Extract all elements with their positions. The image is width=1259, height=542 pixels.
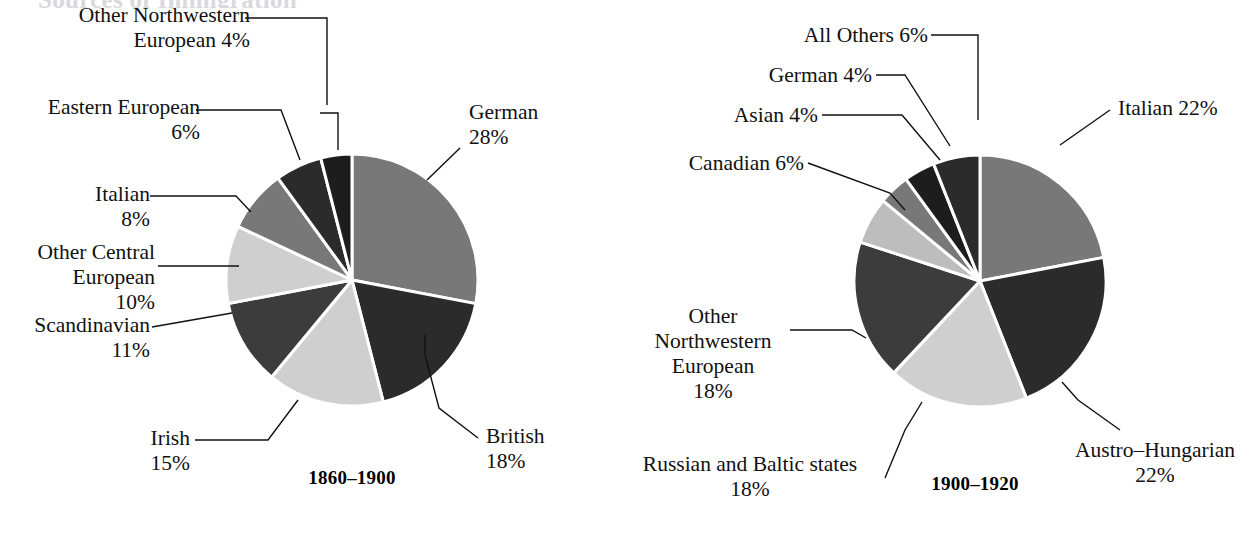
label-italian-1860: Italian 8% — [30, 182, 150, 232]
leader-german-1900 — [876, 75, 950, 146]
pie-slice-german — [906, 164, 980, 281]
pie-slice-other-northwestern-european — [321, 154, 352, 280]
leader-british-1860 — [425, 335, 478, 438]
leader-irish-1860 — [195, 400, 298, 440]
label-italian-1900: Italian 22% — [1118, 96, 1258, 121]
leader-canadian-1900 — [808, 163, 905, 210]
leader-scandinavian-1860 — [152, 313, 232, 327]
pie-chart-1860-1900 — [226, 154, 478, 406]
pie-slice-austro-hungarian — [980, 257, 1106, 398]
leader-other-northwestern-european-tick-1860 — [320, 113, 338, 150]
label-canadian-1900: Canadian 6% — [585, 151, 804, 176]
label-eastern-european-1860: Eastern European 6% — [15, 95, 200, 145]
pie-slice-other-central-european — [226, 226, 352, 303]
pie-slice-german — [352, 154, 478, 304]
label-other-northwestern-european-1860: Other Northwestern European 4% — [35, 3, 250, 53]
pie-slice-scandinavian — [228, 280, 352, 377]
pie-slice-russian-and-baltic-states — [894, 281, 1027, 407]
label-other-northwestern-european-1900: Other Northwestern European 18% — [640, 304, 786, 404]
leader-other-northwestern-european-1900 — [790, 330, 866, 338]
leader-german-1860 — [427, 148, 460, 180]
leader-lines — [150, 18, 1120, 478]
caption-1860-1900: 1860–1900 — [262, 467, 442, 489]
leader-italian-1860 — [150, 196, 251, 212]
pie-slice-italian — [238, 178, 352, 280]
caption-1900-1920: 1900–1920 — [885, 473, 1065, 495]
pie-slice-irish — [272, 280, 384, 406]
pie-slice-asian — [883, 179, 980, 281]
label-all-others-1900: All Others 6% — [700, 23, 928, 48]
leader-eastern-european-1860 — [196, 110, 300, 160]
label-german-1900: German 4% — [660, 63, 872, 88]
pie-slice-other-northwestern-european — [854, 242, 980, 373]
pie-slice-british — [352, 280, 476, 402]
pie-slice-italian — [980, 155, 1104, 281]
leader-austro-hungarian-1900 — [1062, 382, 1120, 430]
label-german-1860: German 28% — [469, 100, 609, 150]
pie-slice-eastern-european — [278, 158, 352, 280]
label-other-central-european-1860: Other Central European 10% — [5, 240, 155, 315]
pie-slice-canadian — [860, 201, 980, 281]
label-russian-baltic-1900: Russian and Baltic states 18% — [605, 452, 895, 502]
leader-other-northwestern-european-1860 — [245, 18, 327, 105]
label-irish-1860: Irish 15% — [75, 426, 190, 476]
leader-italian-1900 — [1060, 110, 1110, 145]
pie-chart-1900-1920 — [854, 155, 1106, 407]
leader-asian-1900 — [822, 115, 940, 160]
leader-all-others-1900 — [931, 35, 978, 120]
label-scandinavian-1860: Scandinavian 11% — [5, 313, 150, 363]
figure-canvas: Sources of Immigration Other North — [0, 0, 1259, 542]
label-austro-hungarian-1900: Austro–Hungarian 22% — [1055, 438, 1255, 488]
pie-slice-all-others — [934, 155, 980, 281]
label-asian-1900: Asian 4% — [620, 103, 818, 128]
